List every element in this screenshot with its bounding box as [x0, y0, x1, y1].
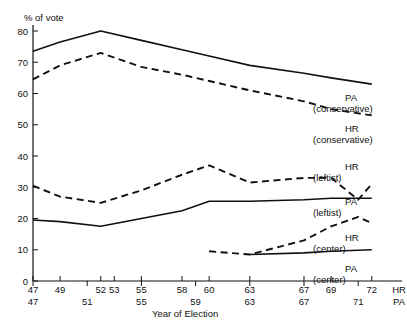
y-axis-tick-label: 40 [17, 151, 28, 162]
series-label-hr-center-party: HR [345, 232, 359, 243]
series-label-hr-leftist-party: HR [345, 161, 359, 172]
x-axis-tick-label-hr: 49 [55, 284, 66, 295]
series-line-pa-conservative [33, 31, 372, 84]
y-axis-tick-label: 80 [17, 26, 28, 37]
x-axis-title: Year of Election [152, 308, 218, 319]
x-axis-tick-label-hr: 52 [95, 284, 106, 295]
x-axis-tick-label-pa: 67 [299, 296, 310, 307]
y-axis-tick-label: 50 [17, 119, 28, 130]
series-label-pa-leftist-bloc: (leftist) [313, 207, 342, 218]
series-label-pa-center-bloc: (center) [313, 274, 346, 285]
series-label-pa-conservative-bloc: (conservative) [313, 103, 373, 114]
x-axis-tick-label-hr: 53 [109, 284, 120, 295]
x-axis-tick-label-pa: 51 [82, 296, 93, 307]
series-label-hr-center-bloc: (center) [313, 243, 346, 254]
y-axis-tick-label: 10 [17, 244, 28, 255]
series-label-hr-leftist-bloc: (leftist) [313, 172, 342, 183]
x-axis-tick-label-hr: 72 [366, 284, 377, 295]
series-label-hr-conservative-party: HR [345, 123, 359, 134]
x-axis-tick-label-hr: 69 [326, 284, 337, 295]
x-axis-row-label-hr: HR [392, 284, 406, 295]
x-axis-tick-label-pa: 71 [353, 296, 364, 307]
y-axis-tick-label: 20 [17, 213, 28, 224]
x-axis-tick-label-pa: 55 [136, 296, 147, 307]
series-label-pa-leftist-party: PA [345, 196, 358, 207]
series-label-pa-center-party: PA [345, 263, 358, 274]
x-axis-tick-label-hr: 60 [204, 284, 215, 295]
x-axis-tick-label-hr: 58 [177, 284, 188, 295]
x-axis-tick-label-pa: 47 [28, 296, 39, 307]
x-axis-tick-label-pa: 59 [190, 296, 201, 307]
y-axis-tick-label: 60 [17, 88, 28, 99]
y-axis-title: % of vote [24, 12, 64, 23]
x-axis-tick-label-pa: 63 [245, 296, 256, 307]
y-axis-tick-label: 70 [17, 57, 28, 68]
series-label-pa-conservative-party: PA [345, 92, 358, 103]
series-line-hr-leftist [33, 165, 372, 203]
x-axis-row-label-pa: PA [393, 296, 406, 307]
line-chart: 01020304050607080% of vote47495253555860… [0, 0, 407, 323]
chart-container: 01020304050607080% of vote47495253555860… [0, 0, 407, 323]
series-label-hr-conservative-bloc: (conservative) [313, 134, 373, 145]
y-axis-tick-label: 30 [17, 182, 28, 193]
